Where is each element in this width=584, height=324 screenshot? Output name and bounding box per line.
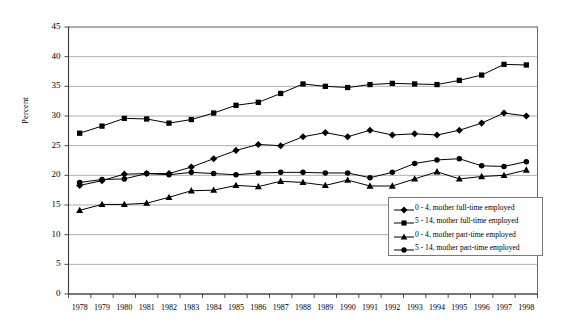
data-point bbox=[501, 62, 506, 67]
data-point bbox=[99, 123, 104, 128]
legend-item: 5 - 14, mother part-time employed bbox=[393, 242, 539, 256]
data-point bbox=[122, 116, 127, 121]
legend-label: 0 - 4, mother full-time employed bbox=[415, 202, 515, 214]
data-point bbox=[144, 171, 150, 177]
data-point bbox=[278, 91, 283, 96]
data-point bbox=[479, 163, 485, 169]
data-point bbox=[501, 164, 507, 170]
data-point bbox=[233, 172, 239, 178]
data-point bbox=[77, 131, 82, 136]
triangle-marker-icon bbox=[393, 229, 415, 241]
data-point bbox=[524, 159, 530, 165]
data-point bbox=[211, 171, 217, 177]
data-point bbox=[189, 170, 195, 176]
diamond-marker-icon bbox=[393, 202, 415, 214]
legend-item: 0 - 4, mother part-time employed bbox=[393, 228, 539, 242]
data-point bbox=[122, 176, 128, 182]
data-point bbox=[524, 62, 529, 67]
legend-label: 0 - 4, mother part-time employed bbox=[415, 229, 516, 241]
data-point bbox=[390, 81, 395, 86]
legend-item: 0 - 4, mother full-time employed bbox=[393, 201, 539, 215]
data-point bbox=[211, 110, 216, 115]
data-point bbox=[434, 157, 440, 163]
data-point bbox=[144, 116, 149, 121]
legend-label: 5 - 14, mother part-time employed bbox=[415, 242, 520, 254]
data-point bbox=[457, 156, 463, 162]
square-marker-icon bbox=[393, 215, 415, 227]
legend-label: 5 - 14, mother full-time employed bbox=[415, 215, 518, 227]
data-point bbox=[278, 170, 284, 176]
data-point bbox=[412, 161, 418, 167]
data-point bbox=[256, 100, 261, 105]
plot-area bbox=[0, 0, 584, 324]
data-point bbox=[412, 81, 417, 86]
data-point bbox=[233, 103, 238, 108]
data-point bbox=[345, 85, 350, 90]
data-point bbox=[457, 78, 462, 83]
data-point bbox=[77, 180, 83, 186]
circle-marker-icon bbox=[393, 242, 415, 254]
data-point bbox=[367, 82, 372, 87]
data-point bbox=[323, 84, 328, 89]
data-point bbox=[99, 177, 105, 183]
data-point bbox=[390, 170, 396, 176]
data-point bbox=[479, 72, 484, 77]
data-point bbox=[434, 82, 439, 87]
legend: 0 - 4, mother full-time employed5 - 14, … bbox=[388, 197, 543, 256]
data-point bbox=[323, 170, 329, 176]
legend-item: 5 - 14, mother full-time employed bbox=[393, 215, 539, 229]
data-point bbox=[300, 170, 306, 176]
data-point bbox=[345, 170, 351, 176]
data-point bbox=[166, 172, 172, 178]
data-point bbox=[367, 175, 373, 181]
data-point bbox=[256, 170, 262, 176]
line-chart: Percent 051015202530354045 1978197919801… bbox=[0, 0, 584, 324]
data-point bbox=[300, 81, 305, 86]
data-point bbox=[189, 117, 194, 122]
data-point bbox=[166, 120, 171, 125]
